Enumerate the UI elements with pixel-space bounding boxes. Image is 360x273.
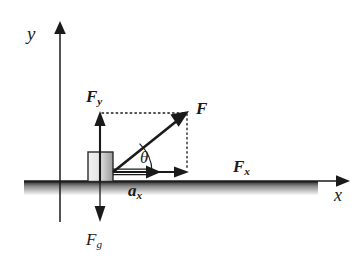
force-label-Fx: Fx [233,158,250,177]
acceleration-label-ax-subscript: x [137,189,143,201]
acceleration-label-ax: ax [128,182,142,201]
force-label-Fy-subscript: y [97,95,102,107]
force-label-Fg-subscript: g [96,238,102,250]
force-label-F-text: F [196,99,207,118]
axis-label-x: x [334,186,342,204]
ground-surface [24,181,318,196]
force-label-Fx-subscript: x [244,165,250,177]
acceleration-label-ax-text: a [128,181,137,200]
axis-label-y: y [27,24,35,43]
force-label-F: F [196,100,207,117]
figure-canvas: y x F Fx Fy Fg ax θ [0,0,360,273]
angle-label-theta: θ [140,149,148,166]
force-label-Fy: Fy [86,88,102,107]
force-label-Fy-text: F [86,87,97,106]
force-diagram-svg [0,0,360,273]
force-label-Fg: Fg [86,231,102,250]
force-label-Fg-text: F [86,230,96,249]
force-label-Fx-text: F [233,157,244,176]
